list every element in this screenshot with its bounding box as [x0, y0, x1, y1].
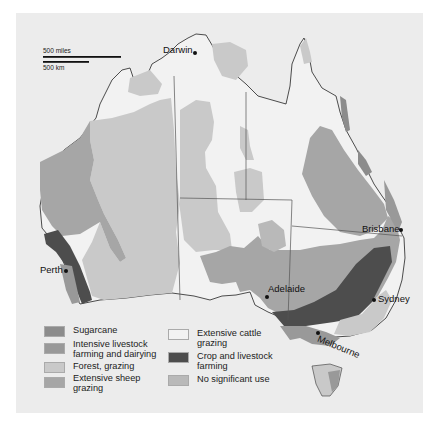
city-dot-adelaide	[265, 295, 269, 299]
legend-swatch-none	[168, 375, 189, 386]
city-dot-darwin	[193, 51, 197, 55]
legend-label: Sugarcane	[73, 325, 183, 335]
city-label-perth: Perth	[40, 264, 63, 275]
legend-label: No significant use	[197, 374, 307, 384]
legend-label: Forest, grazing	[73, 361, 183, 371]
scale-bar-km	[43, 61, 89, 63]
legend-label: Extensive cattle grazing	[197, 328, 277, 348]
city-label-adelaide: Adelaide	[268, 283, 305, 294]
city-label-brisbane: Brisbane	[362, 223, 400, 234]
legend-swatch-sheep	[44, 377, 65, 388]
legend-swatch-cattle	[168, 329, 189, 340]
city-label-darwin: Darwin	[163, 44, 193, 55]
legend-item-none: No significant use	[168, 374, 307, 386]
legend-swatch-forest	[44, 362, 65, 373]
scale-bar-miles	[43, 56, 121, 58]
scale-label-miles: 500 miles	[43, 47, 71, 54]
legend-swatch-sugarcane	[44, 326, 65, 337]
legend-swatch-crop	[168, 352, 189, 363]
city-dot-brisbane	[399, 228, 403, 232]
legend-item-crop: Crop and livestock farming	[168, 351, 287, 371]
city-dot-sydney	[372, 298, 376, 302]
legend-swatch-intensive	[44, 343, 65, 354]
city-label-sydney: Sydney	[378, 293, 410, 304]
legend-item-forest: Forest, grazing	[44, 361, 183, 373]
scale-label-km: 500 km	[43, 64, 64, 71]
city-dot-perth	[64, 269, 68, 273]
legend-label: Extensive sheep grazing	[73, 373, 153, 393]
legend-item-intensive: Intensive livestock farming and dairying	[44, 339, 173, 359]
legend-label: Crop and livestock farming	[197, 351, 287, 371]
legend-item-sugarcane: Sugarcane	[44, 325, 183, 337]
legend-item-cattle: Extensive cattle grazing	[168, 328, 277, 348]
legend-label: Intensive livestock farming and dairying	[73, 339, 173, 359]
legend-item-sheep: Extensive sheep grazing	[44, 373, 153, 393]
